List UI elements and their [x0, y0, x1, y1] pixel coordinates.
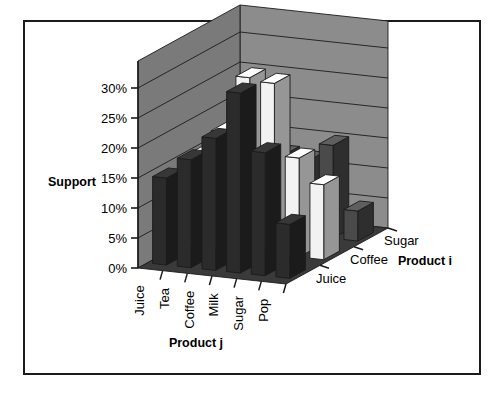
- y-tick-label-30%: 30%: [101, 81, 127, 96]
- y-tick-label-5%: 5%: [108, 231, 127, 246]
- bar-sugar-coffee-front: [202, 137, 216, 270]
- y-axis-title: Support: [48, 175, 97, 189]
- bar-coffee-pop-front: [310, 183, 324, 259]
- z-series-label-juice: Juice: [316, 271, 346, 286]
- x-tick-milk: [234, 279, 237, 288]
- y-tick-label-25%: 25%: [101, 111, 127, 126]
- x-category-label-sugar: Sugar: [231, 295, 246, 330]
- z-series-label-sugar: Sugar: [384, 233, 419, 248]
- x-category-label-juice: Juice: [132, 285, 147, 315]
- x-category-label-milk: Milk: [206, 293, 221, 317]
- bar-sugar-sugar-front: [251, 151, 265, 275]
- z-tick-sugar: [388, 228, 397, 231]
- chart-figure: 0%5%10%15%20%25%30%SupportJuiceTeaCoffee…: [0, 0, 504, 398]
- y-tick-label-15%: 15%: [101, 171, 127, 186]
- y-tick-label-10%: 10%: [101, 201, 127, 216]
- x-tick-juice: [160, 271, 163, 280]
- bar-sugar-juice-front: [153, 177, 167, 265]
- bar-sugar-milk-front: [227, 92, 241, 273]
- x-tick-sugar: [259, 281, 262, 290]
- x-category-label-coffee: Coffee: [182, 291, 197, 329]
- y-tick-label-20%: 20%: [101, 141, 127, 156]
- x-tick-pop: [283, 284, 286, 293]
- y-tick-label-0%: 0%: [108, 261, 127, 276]
- bar-sugar-tea-front: [177, 158, 191, 267]
- x-tick-tea: [185, 273, 188, 282]
- bar-chart-3d: 0%5%10%15%20%25%30%SupportJuiceTeaCoffee…: [0, 0, 504, 398]
- x-axis-title: Product j: [169, 336, 223, 350]
- z-series-label-coffee: Coffee: [350, 252, 388, 267]
- x-tick-coffee: [209, 276, 212, 285]
- bar-juice-pop-front: [344, 210, 358, 241]
- x-category-label-pop: Pop: [256, 299, 271, 322]
- x-category-label-tea: Tea: [157, 287, 172, 309]
- bar-sugar-pop-side: [290, 216, 306, 279]
- bar-coffee-pop-side: [324, 176, 340, 260]
- bar-sugar-pop-front: [276, 223, 290, 278]
- z-tick-juice: [320, 265, 329, 268]
- z-tick-coffee: [354, 247, 363, 250]
- z-axis-title: Product i: [398, 254, 452, 268]
